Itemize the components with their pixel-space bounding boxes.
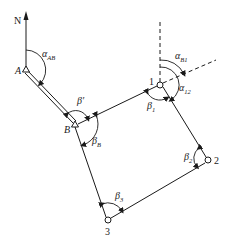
label-3: 3: [105, 226, 110, 237]
label-alpha-AB: αAB: [42, 48, 55, 61]
arc-beta-2: [194, 148, 199, 167]
point-3-circle-icon: [105, 217, 111, 223]
point-2-circle-icon: [205, 157, 211, 163]
label-beta-prime: β′: [76, 95, 85, 106]
traverse-diagram: N: [0, 0, 236, 246]
edge-1-2: [163, 87, 206, 157]
reference-lines-point-1: [160, 20, 216, 83]
arc-beta-3: [102, 203, 122, 211]
north-label: N: [14, 15, 21, 26]
label-2: 2: [214, 155, 219, 166]
label-beta-2: β2: [183, 151, 193, 164]
label-A: A: [14, 65, 22, 76]
north-arrow: N: [14, 11, 29, 70]
point-1-circle-icon: [157, 82, 163, 88]
edge-2-3: [111, 163, 205, 218]
label-beta-1: β1: [146, 100, 155, 113]
label-beta-3: β3: [114, 190, 124, 203]
extension-B1-dashed: [163, 60, 216, 83]
point-A-triangle-icon: [23, 66, 30, 72]
arc-beta-1: [147, 92, 167, 100]
known-edge-AB: [25, 70, 76, 123]
label-beta-B: βB: [91, 135, 101, 148]
north-arrowhead-icon: [24, 11, 29, 20]
label-alpha-12: α12: [179, 82, 192, 95]
label-B: B: [64, 124, 70, 135]
edge-B-1: [78, 86, 157, 124]
angle-arcs: [26, 50, 199, 211]
label-1: 1: [149, 76, 154, 87]
label-alpha-B1: αB1: [175, 50, 187, 63]
